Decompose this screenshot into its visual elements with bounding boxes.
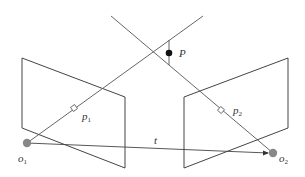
- ray-o2-to-P: [111, 16, 273, 153]
- label-t: t: [154, 134, 158, 146]
- projection-p2-marker: [217, 106, 224, 113]
- point-P: [166, 50, 173, 57]
- label-p1: p1: [81, 110, 92, 124]
- label-o2: o2: [279, 152, 289, 166]
- camera-center-o1: [23, 139, 31, 147]
- baseline-arrow-icon: [263, 151, 269, 156]
- left-image-plane: [22, 58, 125, 168]
- baseline-t: [27, 143, 268, 153]
- epipolar-diagram: P p1 p2 t o1 o2: [0, 0, 305, 177]
- label-o1: o1: [18, 152, 28, 166]
- label-P: P: [178, 47, 186, 59]
- ray-o1-to-P: [27, 16, 203, 143]
- label-p2: p2: [232, 104, 243, 118]
- camera-center-o2: [269, 149, 277, 157]
